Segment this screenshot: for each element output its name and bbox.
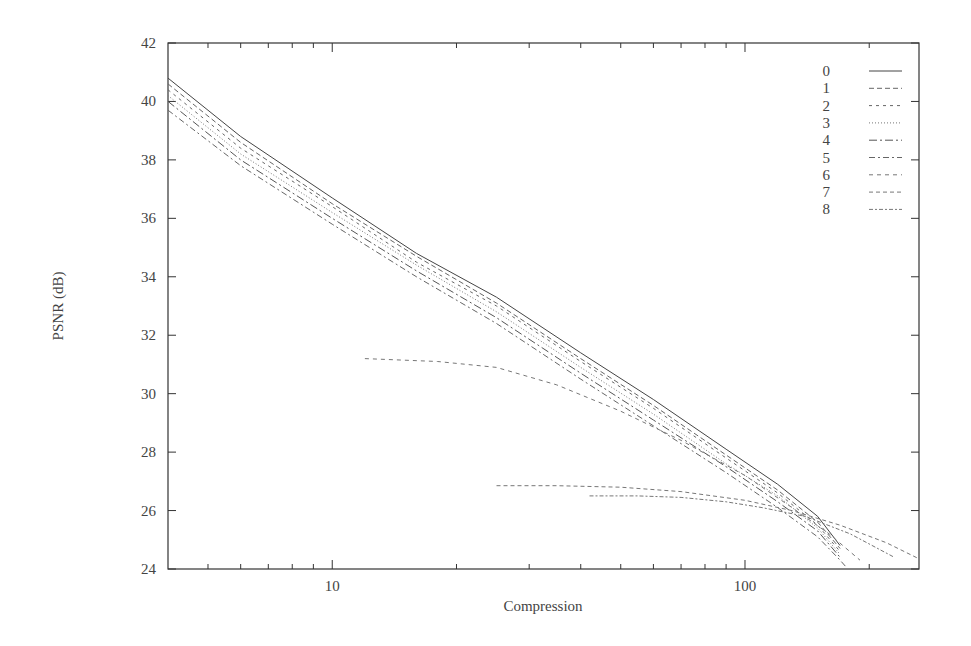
y-tick-label: 34 (141, 269, 157, 285)
y-tick-label: 36 (141, 210, 157, 226)
legend-label: 7 (823, 184, 831, 200)
series-line-4 (168, 101, 840, 557)
y-tick-label: 38 (141, 152, 156, 168)
legend-label: 6 (823, 167, 831, 183)
legend-label: 2 (823, 98, 831, 114)
plot-frame (168, 43, 919, 569)
series-line-2 (168, 90, 840, 552)
y-tick-label: 30 (141, 386, 156, 402)
legend-label: 3 (823, 115, 831, 131)
x-tick-label: 10 (325, 578, 340, 594)
y-tick-label: 42 (141, 35, 156, 51)
series-line-5 (168, 110, 845, 566)
series-line-6 (365, 359, 860, 561)
y-axis-label: PSNR (dB) (50, 272, 67, 341)
x-axis-ticks: 10100 (208, 43, 869, 594)
y-tick-label: 24 (141, 561, 157, 577)
x-tick-label: 100 (734, 578, 757, 594)
series-line-8 (590, 496, 895, 557)
legend-label: 5 (823, 150, 831, 166)
series-line-7 (497, 486, 920, 559)
legend-label: 0 (823, 63, 831, 79)
y-tick-label: 32 (141, 327, 156, 343)
y-axis-ticks: 24262830323436384042 (141, 35, 919, 577)
legend-label: 4 (823, 132, 831, 148)
legend-label: 1 (823, 80, 831, 96)
y-tick-label: 28 (141, 444, 156, 460)
y-tick-label: 26 (141, 503, 157, 519)
series-lines (168, 78, 919, 566)
psnr-vs-compression-chart: 24262830323436384042 10100 012345678 Com… (0, 0, 971, 646)
legend-label: 8 (823, 201, 831, 217)
y-tick-label: 40 (141, 93, 156, 109)
legend: 012345678 (823, 63, 903, 217)
x-axis-label: Compression (503, 598, 583, 614)
